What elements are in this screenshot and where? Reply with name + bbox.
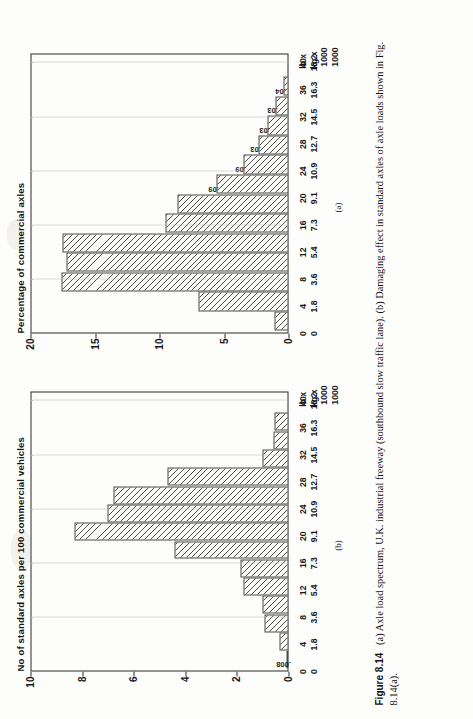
x-tick-label-lb: 12 <box>297 584 308 596</box>
bar <box>198 291 288 310</box>
bar-value-label: .09 <box>235 164 245 173</box>
figure-page: No of standard axles per 100 commercial … <box>0 0 473 719</box>
y-tick-label: 2 <box>231 676 242 682</box>
x-tick-label-lb: 0 <box>297 669 308 674</box>
chart-b-axis-title: No of standard axles per 100 commercial … <box>14 436 25 671</box>
x-tick-label-kg: 12.7 <box>308 473 319 490</box>
y-tick-label: 0 <box>283 338 294 344</box>
y-tick-label: 5 <box>218 338 229 344</box>
figure-caption: Figure 8.14 (a) Axle load spectrum, U.K.… <box>372 18 399 705</box>
x-tick-group: 2410.9 <box>297 500 318 517</box>
y-tick-mark <box>95 333 96 338</box>
x-tick-group: 209.1 <box>297 192 318 204</box>
x-tick-label-lb: 24 <box>297 162 308 179</box>
x-tick-group: 3616.3 <box>297 419 318 436</box>
y-tick-label: 20 <box>25 338 36 349</box>
y-tick-mark <box>288 671 289 676</box>
x-tick-group: 209.1 <box>297 530 318 542</box>
x-tick-label-kg: 18.2 <box>308 54 319 71</box>
gridline <box>30 278 288 279</box>
x-tick-group: 125.4 <box>297 246 318 258</box>
bar <box>66 252 288 271</box>
x-tick-label-kg: 7.3 <box>308 557 319 569</box>
x-tick-group: 2812.7 <box>297 135 318 152</box>
x-tick-label-lb: 20 <box>297 530 308 542</box>
chart-a-bars: .09.09.03.03.03.04 <box>30 53 288 333</box>
x-tick-label-lb: 16 <box>297 557 308 569</box>
bar <box>62 233 288 252</box>
x-tick-group: 00 <box>297 669 318 674</box>
x-tick-label-lb: 36 <box>297 419 308 436</box>
bar <box>167 467 288 485</box>
x-tick-label-kg: 14.5 <box>308 446 319 463</box>
x-tick-label-kg: 16.3 <box>308 419 319 436</box>
gridline <box>30 508 288 509</box>
y-tick-label: 15 <box>89 338 100 349</box>
bar <box>262 449 288 467</box>
bar <box>262 595 288 613</box>
x-tick-group: 167.3 <box>297 557 318 569</box>
chart-b-plot-area: .008 <box>30 391 288 671</box>
x-tick-label-kg: 7.3 <box>308 219 319 231</box>
y-tick-label: 10 <box>154 338 165 349</box>
y-tick-mark <box>236 671 237 676</box>
x-tick-label-kg: 9.1 <box>308 192 319 204</box>
y-tick-label: 0 <box>283 676 294 682</box>
chart-a-y-axis: 05101520 <box>30 333 288 367</box>
y-tick-label: 8 <box>76 676 87 682</box>
bar <box>273 431 288 449</box>
bar <box>216 174 288 193</box>
x-tick-group: 83.6 <box>297 273 318 285</box>
y-tick-mark <box>30 671 31 676</box>
bar-value-label: .03 <box>259 125 269 134</box>
x-tick-group: 2812.7 <box>297 473 318 490</box>
y-tick-label: 6 <box>128 676 139 682</box>
x-tick-label-kg: 1.8 <box>308 300 319 312</box>
x-tick-label-lb: 4 <box>297 300 308 312</box>
figure-number: Figure 8.14 <box>373 652 384 705</box>
bar <box>267 115 288 134</box>
x-tick-label-kg: 3.6 <box>308 611 319 623</box>
y-tick-mark <box>159 333 160 338</box>
x-tick-group: 125.4 <box>297 584 318 596</box>
x-tick-label-lb: 4 <box>297 638 308 650</box>
gridline <box>30 116 288 117</box>
y-tick-mark <box>185 671 186 676</box>
x-tick-label-lb: 32 <box>297 108 308 125</box>
x-tick-group: 00 <box>297 331 318 336</box>
x-tick-group: 167.3 <box>297 219 318 231</box>
x-tick-label-kg: 9.1 <box>308 530 319 542</box>
x-tick-label-kg: 18.2 <box>308 392 319 409</box>
x-tick-group: 3214.5 <box>297 108 318 125</box>
bar <box>165 213 288 232</box>
x-tick-label-lb: 0 <box>297 331 308 336</box>
y-tick-mark <box>133 671 134 676</box>
y-tick-mark <box>288 333 289 338</box>
x-tick-label-kg: 1.8 <box>308 638 319 650</box>
x-tick-label-kg: 0 <box>308 331 319 336</box>
bar <box>243 577 288 595</box>
x-tick-label-lb: 32 <box>297 446 308 463</box>
x-tick-group: 41.8 <box>297 638 318 650</box>
figure-caption-a: (a) Axle load spectrum, U.K. industrial … <box>373 316 384 645</box>
x-tick-group: 4018.2 <box>297 54 318 71</box>
x-tick-group: 41.8 <box>297 300 318 312</box>
chart-b-bars: .008 <box>30 391 288 671</box>
x-tick-group: 83.6 <box>297 611 318 623</box>
bar-value-label: .03 <box>267 105 277 114</box>
bar <box>274 412 288 430</box>
bar <box>258 135 288 154</box>
x-tick-label-lb: 8 <box>297 611 308 623</box>
x-tick-label-lb: 40 <box>297 392 308 409</box>
x-tick-label-kg: 10.9 <box>308 500 319 517</box>
chart-b-panel-tag: (b) <box>332 385 342 705</box>
x-tick-label-lb: 12 <box>297 246 308 258</box>
x-tick-group: 4018.2 <box>297 392 318 409</box>
x-tick-label-lb: 28 <box>297 473 308 490</box>
gridline <box>30 61 288 62</box>
chart-a-panel-tag: (a) <box>332 47 342 367</box>
chart-b-y-axis: 0246810 <box>30 671 288 705</box>
x-tick-label-lb: 36 <box>297 81 308 98</box>
x-tick-label-kg: 16.3 <box>308 81 319 98</box>
x-tick-label-kg: 14.5 <box>308 108 319 125</box>
